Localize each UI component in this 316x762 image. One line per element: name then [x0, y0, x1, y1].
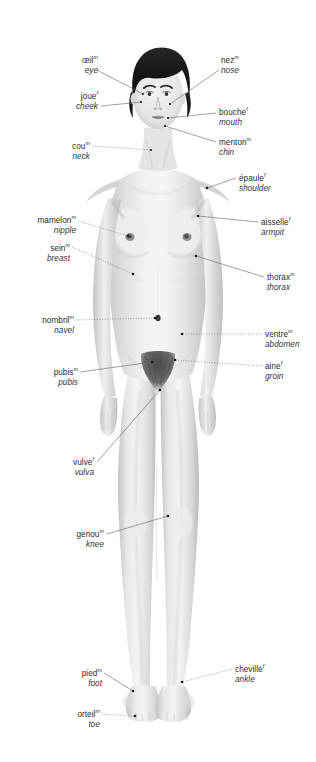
- label-breast-fr: seinm: [8, 240, 70, 254]
- label-breast: seinm breast: [8, 240, 70, 264]
- label-cheek-en: cheek: [34, 102, 98, 112]
- label-pubis-en: pubis: [16, 378, 78, 388]
- label-thorax-fr: thoraxm: [267, 269, 295, 283]
- label-navel-fr: nombrilm: [8, 312, 74, 326]
- label-groin-fr: ainef: [265, 358, 283, 372]
- label-navel-en: navel: [8, 326, 74, 336]
- label-pubis-fr: pubism: [16, 364, 78, 378]
- label-pubis: pubism pubis: [16, 364, 78, 388]
- label-vulva: vulvef vulva: [36, 454, 94, 478]
- anatomy-diagram: œilm eye jouef cheek coum neck mamelonm …: [0, 0, 316, 762]
- label-nose-fr: nezm: [221, 52, 239, 66]
- label-knee-fr: genoum: [44, 526, 104, 540]
- leader-chin: [165, 126, 216, 142]
- left-hand: [100, 396, 117, 436]
- label-ankle-en: ankle: [235, 675, 264, 685]
- label-vulva-fr: vulvef: [36, 454, 94, 468]
- label-foot: piedm foot: [46, 665, 102, 689]
- label-foot-fr: piedm: [46, 665, 102, 679]
- label-mouth: bouchef mouth: [219, 104, 248, 128]
- label-nose-en: nose: [221, 66, 239, 76]
- leader-foot: [104, 673, 133, 691]
- leader-shoulder: [207, 178, 236, 188]
- label-mouth-en: mouth: [219, 118, 248, 128]
- label-thorax: thoraxm thorax: [267, 269, 295, 293]
- label-neck-en: neck: [28, 152, 90, 162]
- label-groin: ainef groin: [265, 358, 283, 382]
- label-ankle: chevillef ankle: [235, 661, 264, 685]
- label-navel: nombrilm navel: [8, 312, 74, 336]
- label-shoulder: épaulef shoulder: [239, 170, 271, 194]
- label-neck: coum neck: [28, 138, 90, 162]
- label-shoulder-fr: épaulef: [239, 170, 271, 184]
- label-thorax-en: thorax: [267, 283, 295, 293]
- label-chin-en: chin: [219, 148, 251, 158]
- label-ankle-fr: chevillef: [235, 661, 264, 675]
- label-abdomen-fr: ventrem: [265, 326, 300, 340]
- label-abdomen: ventrem abdomen: [265, 326, 300, 350]
- label-breast-en: breast: [8, 254, 70, 264]
- label-eye: œilm eye: [34, 52, 98, 76]
- label-nose: nezm nose: [221, 52, 239, 76]
- label-vulva-en: vulva: [36, 468, 94, 478]
- label-armpit: aissellef armpit: [261, 214, 290, 238]
- label-chin-fr: mentonm: [219, 134, 251, 148]
- body-group: [86, 48, 230, 723]
- label-mouth-fr: bouchef: [219, 104, 248, 118]
- leader-ankle: [182, 669, 232, 682]
- label-foot-en: foot: [46, 679, 102, 689]
- label-cheek: jouef cheek: [34, 88, 98, 112]
- label-nipple-fr: mamelonm: [8, 212, 76, 226]
- label-groin-en: groin: [265, 372, 283, 382]
- label-toe-en: toe: [44, 720, 100, 730]
- label-abdomen-en: abdomen: [265, 340, 300, 350]
- label-shoulder-en: shoulder: [239, 184, 271, 194]
- label-knee-en: knee: [44, 540, 104, 550]
- label-toe: orteilm toe: [44, 706, 100, 730]
- label-toe-fr: orteilm: [44, 706, 100, 720]
- leader-neck: [92, 146, 151, 150]
- label-eye-en: eye: [34, 66, 98, 76]
- label-eye-fr: œilm: [34, 52, 98, 66]
- label-chin: mentonm chin: [219, 134, 251, 158]
- label-armpit-en: armpit: [261, 228, 290, 238]
- label-armpit-fr: aissellef: [261, 214, 290, 228]
- label-cheek-fr: jouef: [34, 88, 98, 102]
- label-nipple-en: nipple: [8, 226, 76, 236]
- label-nipple: mamelonm nipple: [8, 212, 76, 236]
- label-knee: genoum knee: [44, 526, 104, 550]
- label-neck-fr: coum: [28, 138, 90, 152]
- right-hand: [199, 396, 216, 436]
